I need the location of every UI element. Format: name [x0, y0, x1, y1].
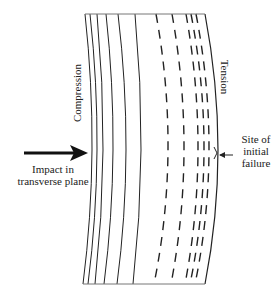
- solid-line: [83, 14, 92, 284]
- solid-line: [95, 14, 103, 284]
- impact-arrow-icon: [24, 145, 88, 161]
- dashed-line: [185, 14, 198, 284]
- outer-edge-line: [205, 14, 218, 284]
- site-label-line3: failure: [234, 157, 278, 169]
- impact-label-line2: transverse plane: [8, 175, 98, 187]
- tension-label: Tension: [219, 57, 231, 97]
- site-label-line1: Site of: [234, 133, 278, 145]
- solid-line: [104, 14, 113, 284]
- solid-line: [117, 14, 126, 284]
- compression-label: Compression: [71, 60, 83, 126]
- dashed-line: [154, 14, 168, 284]
- solid-line: [88, 14, 97, 284]
- impact-label-line1: Impact in: [8, 163, 98, 175]
- tension-dashed-lines: [154, 14, 209, 284]
- site-of-initial-failure-label: Site of initial failure: [234, 133, 278, 169]
- solid-line: [133, 14, 141, 284]
- dashed-line: [171, 14, 184, 284]
- failure-site-pointer-icon: [214, 147, 233, 159]
- impact-label: Impact in transverse plane: [8, 163, 98, 187]
- site-label-line2: initial: [234, 145, 278, 157]
- compression-solid-lines: [83, 14, 141, 284]
